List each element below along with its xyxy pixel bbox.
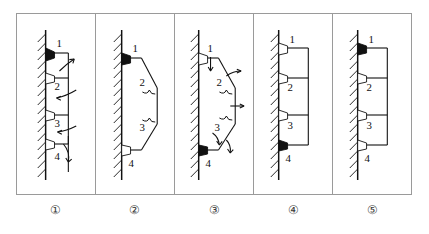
wall-hatching	[191, 34, 199, 177]
joint-label-3: 3	[139, 121, 145, 133]
wall-hatching	[114, 34, 122, 177]
joint-label-3: 3	[367, 119, 373, 131]
joint-3-pin	[46, 110, 55, 121]
joint-1-pin	[199, 53, 208, 65]
joint-1-pin	[279, 43, 288, 55]
joint-markers	[46, 48, 55, 150]
arrow-upper-right	[226, 69, 241, 76]
wall-hatching	[350, 34, 358, 177]
joint-markers	[279, 43, 288, 151]
arrow-lower-down	[213, 133, 223, 145]
arrow-bottom-right	[226, 140, 233, 153]
panel-caption-1: ①	[16, 198, 95, 224]
panel-caption-2: ②	[95, 198, 174, 224]
joint-label-4: 4	[55, 150, 61, 162]
panel-3[interactable]: 1 2 3 4	[175, 14, 254, 194]
caption-row: ① ② ③ ④ ⑤	[16, 198, 412, 224]
joint-markers	[199, 53, 208, 156]
panel-row: 1 2 3 4	[16, 13, 412, 195]
figure-root: 1 2 3 4	[0, 0, 429, 234]
arrow-top-down	[208, 57, 213, 71]
joint-2-pin	[46, 73, 55, 84]
arrow-middle-right	[230, 104, 244, 108]
joint-markers	[358, 43, 367, 151]
joint-label-4: 4	[129, 157, 135, 169]
joint-2-pin	[279, 73, 288, 84]
joint-1-fixed	[358, 43, 367, 55]
linkage-bars	[279, 48, 309, 145]
joint-4-fixed	[199, 145, 208, 156]
panel-3-drawing: 1 2 3 4	[175, 14, 253, 194]
joint-label-1: 1	[133, 42, 138, 54]
panel-1[interactable]: 1 2 3 4	[17, 14, 96, 194]
panel-4-drawing: 1 2 3 4	[254, 14, 332, 194]
panel-5-drawing: 1 2 3 4	[333, 14, 411, 194]
joint-label-1: 1	[369, 33, 374, 45]
joint-label-2: 2	[216, 76, 221, 88]
wall-hatching	[271, 34, 279, 177]
joint-label-3: 3	[288, 119, 294, 131]
panel-5[interactable]: 1 2 3 4	[333, 14, 411, 194]
joint-4-fixed	[279, 140, 288, 151]
joint-4-pin	[122, 145, 131, 156]
joint-1-fixed	[46, 48, 55, 61]
joint-markers	[122, 53, 131, 156]
hook-mark-lower	[219, 116, 232, 120]
joint-label-4: 4	[365, 152, 371, 164]
joint-label-4: 4	[206, 157, 212, 169]
joint-3-pin	[279, 110, 288, 121]
arrow-bottom-down	[63, 144, 71, 162]
joint-4-pin	[358, 140, 367, 151]
panel-1-drawing: 1 2 3 4	[17, 14, 95, 194]
joint-label-2: 2	[55, 80, 60, 92]
wall-hatching	[38, 34, 46, 177]
joint-label-1: 1	[56, 37, 61, 49]
linkage-bars	[358, 48, 388, 145]
joint-label-2: 2	[367, 81, 372, 93]
joint-label-1: 1	[208, 42, 213, 54]
joint-2-pin	[358, 73, 367, 84]
hook-mark-upper	[142, 90, 155, 94]
joint-4-pin	[46, 139, 55, 150]
joint-label-1: 1	[290, 33, 295, 45]
panel-4[interactable]: 1 2 3 4	[254, 14, 333, 194]
joint-label-3: 3	[214, 121, 220, 133]
joint-1-fixed	[122, 53, 131, 65]
arrow-upper-right	[59, 59, 74, 71]
joint-3-pin	[358, 110, 367, 121]
joint-label-2: 2	[139, 76, 144, 88]
joint-label-3: 3	[55, 117, 61, 129]
linkage-bars	[122, 58, 158, 150]
panel-2[interactable]: 1 2 3 4	[96, 14, 175, 194]
linkage-bars	[199, 58, 236, 150]
joint-label-2: 2	[288, 81, 293, 93]
panel-caption-3: ③	[174, 198, 253, 224]
panel-2-drawing: 1 2 3 4	[96, 14, 174, 194]
joint-label-4: 4	[286, 152, 292, 164]
panel-caption-4: ④	[254, 198, 333, 224]
arrow-lower-left	[57, 126, 76, 134]
panel-caption-5: ⑤	[333, 198, 412, 224]
hook-mark-upper	[219, 90, 232, 94]
